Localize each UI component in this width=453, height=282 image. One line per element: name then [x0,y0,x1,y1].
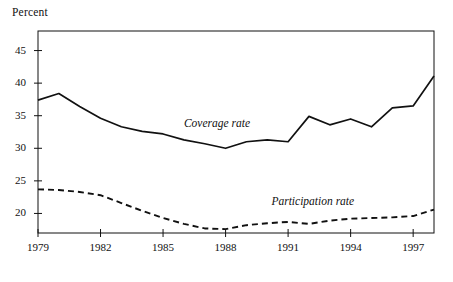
y-tick-label: 40 [4,76,26,88]
x-tick-label: 1982 [81,241,121,253]
x-tick-label: 1991 [268,241,308,253]
y-tick-label: 30 [4,141,26,153]
plot-frame [38,31,434,233]
series-label-2: Participation rate [271,195,354,207]
y-tick-label: 45 [4,44,26,56]
x-tick-label: 1988 [206,241,246,253]
x-tick-label: 1997 [393,241,433,253]
series-paths [38,76,434,229]
x-tick-label: 1994 [331,241,371,253]
y-tick-label: 35 [4,109,26,121]
x-tick-label: 1979 [18,241,58,253]
series-line-2 [38,189,434,229]
series-label-1: Coverage rate [184,117,250,129]
x-tick-label: 1985 [143,241,183,253]
chart-figure: Percent 202530354045 1979198219851988199… [0,0,453,282]
chart-plot-area [0,0,453,282]
y-tick-label: 25 [4,174,26,186]
series-line-1 [38,76,434,148]
y-tick-label: 20 [4,206,26,218]
